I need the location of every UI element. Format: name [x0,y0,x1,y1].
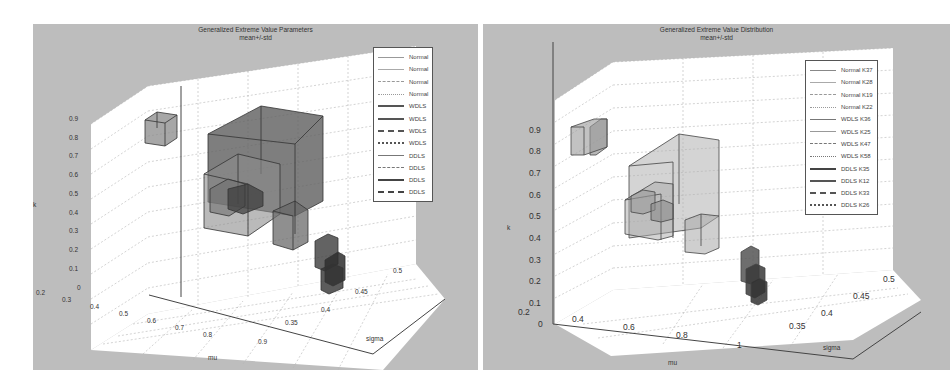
y-tick: 0.4 [321,306,330,313]
legend-line-icon [810,180,836,182]
legend-item: DDLS K33 [810,187,873,199]
x-tick: 1 [737,340,742,350]
x-tick: 0.8 [203,331,212,338]
y-tick: 0.35 [789,321,806,331]
z-tick: 0.2 [529,276,541,286]
x-tick: 0.6 [147,317,156,324]
legend-line-icon [810,107,836,108]
legend-item: WDLS K58 [810,150,873,162]
chart-title: Generalized Extreme Value Distribution [483,26,950,34]
legend-line-icon [378,155,404,156]
legend-item: Normal [378,88,428,100]
legend-item: DDLS K26 [810,199,873,211]
legend-line-icon [810,204,836,206]
x-tick: 0.3 [62,296,71,303]
x-axis-label: mu [208,354,217,361]
x-axis-label: mu [668,359,677,366]
legend-item: Normal [378,63,428,75]
x-tick: 0.2 [518,307,530,317]
legend-item: DDLS [378,186,428,198]
x-tick: 0.2 [36,289,45,296]
legend-line-icon [378,94,404,95]
legend-item: WDLS K47 [810,138,873,150]
legend-item: Normal K28 [810,76,873,88]
legend-item: WDLS K36 [810,113,873,125]
z-tick: 0.4 [69,209,78,216]
z-axis-label: k [33,201,36,208]
right-3d-plot [483,24,950,370]
y-tick: 0.45 [355,288,368,295]
x-tick: 0.6 [623,322,635,332]
legend-line-icon [810,192,836,194]
z-tick: 0.6 [529,190,541,200]
x-tick: 0.8 [676,330,688,340]
chart-title: Generalized Extreme Value Parameters [33,26,478,34]
z-tick: 0.5 [529,211,541,221]
left-figure-panel: Generalized Extreme Value Parameters mea… [33,24,478,370]
z-tick: 0.4 [529,233,541,243]
x-tick: 0.4 [572,314,584,324]
legend-item: Normal [378,76,428,88]
legend-item: DDLS K12 [810,175,873,187]
legend-line-icon [378,130,404,132]
legend-line-icon [810,131,836,132]
legend-item: WDLS [378,125,428,137]
legend-item: Normal K22 [810,101,873,113]
legend-line-icon [810,94,836,95]
y-axis-label: sigma [823,344,840,351]
z-tick: 0 [77,284,81,291]
legend-line-icon [810,70,836,71]
legend-item: WDLS K25 [810,125,873,137]
z-tick: 0.1 [529,298,541,308]
z-tick: 0 [538,319,543,329]
chart-subtitle: mean+/-std [33,34,478,42]
z-tick: 0.6 [69,171,78,178]
legend-line-icon [810,119,836,120]
legend-line-icon [378,191,404,193]
chart-subtitle: mean+/-std [483,34,950,42]
legend-item: DDLS [378,162,428,174]
legend-item: WDLS [378,137,428,149]
legend-line-icon [378,69,404,70]
legend-line-icon [378,105,404,107]
legend-line-icon [378,142,404,144]
z-tick: 0.3 [529,255,541,265]
z-tick: 0.5 [69,190,78,197]
legend: Normal Normal Normal Normal WDLS WDLS WD… [373,47,433,202]
legend-item: DDLS [378,174,428,186]
x-tick: 0.5 [119,310,128,317]
y-tick: 0.35 [285,319,298,326]
z-tick: 0.9 [529,125,541,135]
z-tick: 0.8 [69,134,78,141]
legend-line-icon [810,168,836,170]
y-tick: 0.5 [393,267,402,274]
z-tick: 0.7 [529,168,541,178]
legend-item: Normal [378,51,428,63]
x-tick: 0.7 [175,324,184,331]
legend-line-icon [378,167,404,168]
z-axis-label: k [507,224,510,231]
x-tick: 0.9 [258,338,267,345]
legend-item: DDLS [378,149,428,161]
legend-item: WDLS [378,112,428,124]
y-axis-label: sigma [366,335,383,342]
y-tick: 0.5 [883,274,895,284]
x-tick: 0.4 [90,303,99,310]
legend-line-icon [810,82,836,83]
legend-line-icon [810,143,836,144]
legend-line-icon [378,118,404,120]
z-tick: 0.3 [69,227,78,234]
legend-item: Normal K37 [810,64,873,76]
z-tick: 0.1 [69,265,78,272]
legend-line-icon [378,57,404,58]
y-tick: 0.45 [853,291,870,301]
z-tick: 0.2 [69,246,78,253]
y-tick: 0.4 [821,308,833,318]
legend-line-icon [810,156,836,157]
z-tick: 0.8 [529,146,541,156]
legend-line-icon [378,179,404,181]
z-tick: 0.7 [69,152,78,159]
legend-item: Normal K19 [810,89,873,101]
legend-line-icon [378,81,404,82]
legend: Normal K37 Normal K28 Normal K19 Normal … [805,60,878,215]
